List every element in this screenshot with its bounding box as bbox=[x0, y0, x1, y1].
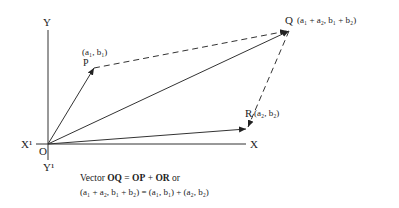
point-p-label: P bbox=[83, 57, 89, 68]
vector-or bbox=[48, 129, 246, 144]
x-axis-label: X bbox=[250, 138, 258, 150]
caption-line-1: Vector OQ = OP + OR or bbox=[80, 173, 181, 183]
origin-label: O bbox=[39, 145, 47, 157]
point-r-label: R bbox=[245, 107, 253, 119]
vector-addition-diagram: Y Y¹ X X¹ O (a₁, b₁) P Q (a₁ + a₂, b₁ + … bbox=[0, 0, 399, 208]
y-axis-label: Y bbox=[43, 16, 51, 28]
point-q-label: Q bbox=[285, 14, 293, 26]
vector-op bbox=[48, 68, 94, 144]
dashed-pq bbox=[94, 31, 287, 68]
x-neg-axis-label: X¹ bbox=[21, 138, 32, 150]
caption-line-2: (a₁ + a₂, b₁ + b₂) = (a₁, b₁) + (a₂, b₂) bbox=[80, 187, 209, 197]
point-p-coords: (a₁, b₁) bbox=[82, 47, 107, 57]
point-q-coords: (a₁ + a₂, b₁ + b₂) bbox=[297, 15, 356, 25]
y-neg-axis-label: Y¹ bbox=[43, 161, 54, 173]
point-r-coords: (a₂, b₂) bbox=[254, 108, 279, 118]
